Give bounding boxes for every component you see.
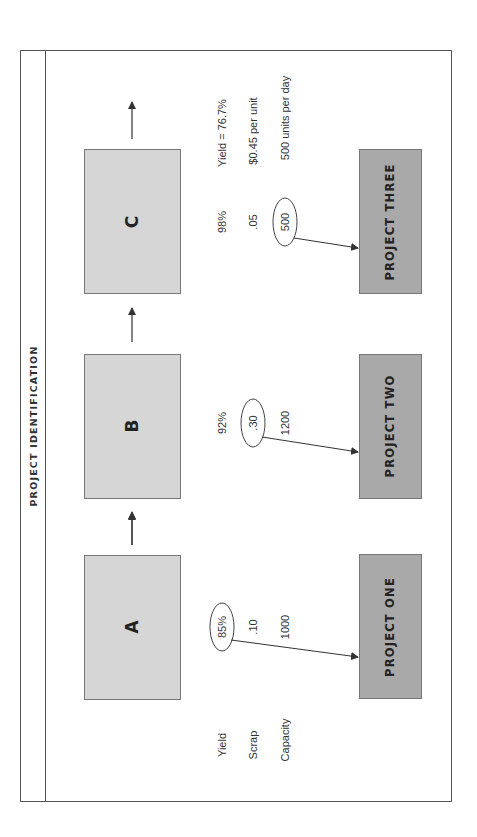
connector-arrow-project-three bbox=[294, 238, 358, 248]
connector-arrow-project-one bbox=[231, 640, 358, 657]
highlight-ellipse-a-yield bbox=[210, 603, 234, 651]
highlight-ellipse-c-capacity bbox=[273, 198, 297, 246]
highlight-ellipse-b-scrap bbox=[241, 399, 265, 447]
connector-arrow-project-two bbox=[262, 437, 358, 452]
connector-layer bbox=[0, 0, 477, 837]
